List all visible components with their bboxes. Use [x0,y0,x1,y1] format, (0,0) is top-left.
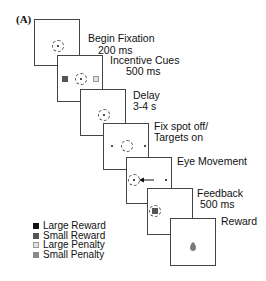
fixation-dot-icon [133,179,135,181]
panel-reward [170,218,216,266]
step-duration-feedback: 500 ms [200,199,234,210]
step-duration-delay: 3-4 s [133,101,156,112]
step-title-reward: Reward [221,216,257,227]
right-target-icon [165,179,167,181]
step-title-begin-fixation: Begin Fixation [88,33,155,44]
reward-drop-icon [188,239,198,252]
small-reward-cue-icon [62,76,68,82]
step-title-eye-movement: Eye Movement [177,156,247,167]
figure-panel-tag: (A) [16,13,31,25]
right-target-icon [144,145,146,147]
step-line2-targets-on: Targets on [154,132,203,143]
fixation-ring-icon [52,40,64,52]
fixation-ring-empty-icon [121,140,133,152]
feedback-cue-icon [152,208,158,214]
legend-label: Small Penalty [43,250,104,260]
fixation-dot-icon [80,78,82,80]
fixation-ring-icon [75,73,87,85]
fixation-dot-icon [57,45,59,47]
saccade-arrow-icon [139,177,155,183]
large-penalty-swatch-icon [33,242,39,248]
small-penalty-swatch-icon [33,252,39,258]
step-duration-incentive-cues: 500 ms [126,66,160,77]
legend-item-small-penalty: Small Penalty [33,250,106,260]
fixation-dot-icon [103,114,105,116]
left-target-icon [111,145,113,147]
large-penalty-cue-icon [93,76,99,82]
large-reward-swatch-icon [33,223,39,229]
fixation-ring-icon [98,109,110,121]
small-reward-swatch-icon [33,233,39,239]
legend: Large Reward Small Reward Large Penalty … [33,221,106,260]
